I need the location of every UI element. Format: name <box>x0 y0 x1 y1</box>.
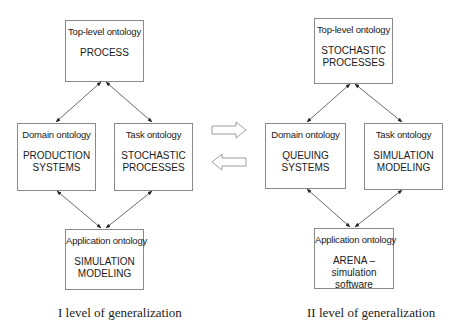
box-body: PROCESS <box>66 47 143 59</box>
box-header: Task ontology <box>365 129 442 140</box>
box-body: SIMULATION MODELING <box>365 150 442 174</box>
box-header: Application ontology <box>66 235 143 246</box>
box-header: Task ontology <box>115 129 192 140</box>
left-domain-app-arrow <box>57 191 101 228</box>
box-header: Top-level ontology <box>315 24 392 35</box>
left-domain-ontology-box: Domain ontology PRODUCTION SYSTEMS <box>17 123 96 191</box>
left-top-level-ontology-box: Top-level ontology PROCESS <box>65 20 144 82</box>
ontology-diagram: Top-level ontology PROCESS Domain ontolo… <box>0 0 458 335</box>
right-task-app-arrow <box>355 190 402 227</box>
box-header: Domain ontology <box>266 129 345 140</box>
left-caption: I level of generalization <box>58 305 182 321</box>
right-arrow-icon <box>212 122 246 138</box>
right-task-ontology-box: Task ontology SIMULATION MODELING <box>364 123 443 190</box>
box-body: ARENA – simulation software <box>315 255 393 291</box>
box-body: STOCHASTIC PROCESSES <box>115 150 192 174</box>
left-top-task-arrow <box>106 82 152 122</box>
box-header: Top-level ontology <box>66 26 143 37</box>
right-top-task-arrow <box>355 84 402 122</box>
left-application-ontology-box: Application ontology SIMULATION MODELING <box>65 229 144 290</box>
right-top-domain-arrow <box>307 84 350 122</box>
left-arrow-icon <box>212 154 246 170</box>
box-header: Domain ontology <box>18 129 95 140</box>
box-header: Application ontology <box>315 234 393 245</box>
right-top-level-ontology-box: Top-level ontology STOCHASTIC PROCESSES <box>314 18 393 84</box>
left-task-app-arrow <box>106 191 152 228</box>
box-body: QUEUING SYSTEMS <box>266 150 345 174</box>
left-top-domain-arrow <box>56 82 101 122</box>
right-domain-ontology-box: Domain ontology QUEUING SYSTEMS <box>265 123 346 189</box>
box-body: STOCHASTIC PROCESSES <box>315 45 392 69</box>
box-body: PRODUCTION SYSTEMS <box>18 150 95 174</box>
right-caption: II level of generalization <box>307 305 435 321</box>
right-domain-app-arrow <box>307 189 350 227</box>
box-body: SIMULATION MODELING <box>66 256 143 280</box>
left-task-ontology-box: Task ontology STOCHASTIC PROCESSES <box>114 123 193 191</box>
right-application-ontology-box: Application ontology ARENA – simulation … <box>314 228 394 289</box>
